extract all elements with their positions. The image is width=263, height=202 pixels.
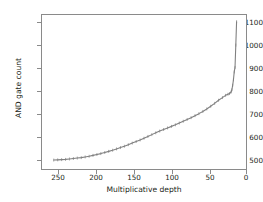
- x-tick-label-0: 0: [226, 174, 263, 181]
- x-tick-label-50: 50: [190, 174, 230, 181]
- series-line: [54, 22, 237, 160]
- series-markers: [54, 20, 237, 161]
- x-axis-label: Multiplicative depth: [41, 186, 247, 194]
- y-axis-label: AND gate count: [15, 28, 23, 148]
- x-tick-label-250: 250: [38, 174, 78, 181]
- chart-figure: AND gate count 1100 1000 900 800 700 600…: [0, 0, 263, 202]
- data-line-chart: [42, 15, 246, 169]
- x-tick-label-150: 150: [114, 174, 154, 181]
- x-tick-label-100: 100: [152, 174, 192, 181]
- plot-area: [41, 14, 247, 170]
- x-tick-label-200: 200: [76, 174, 116, 181]
